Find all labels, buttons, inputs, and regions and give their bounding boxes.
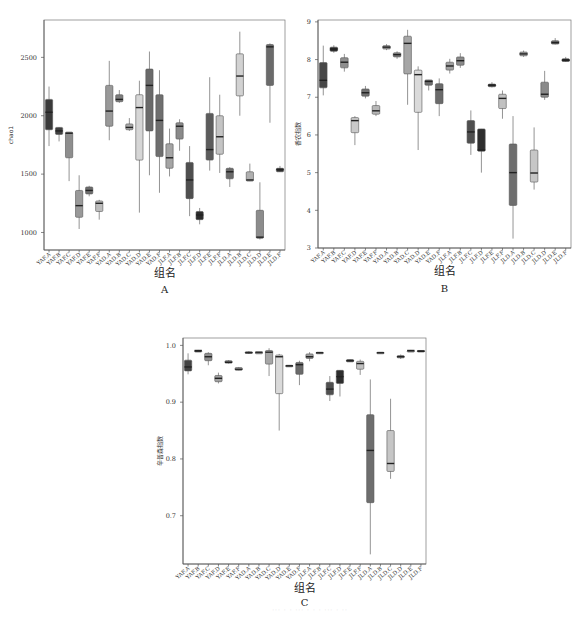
box-JLD.E [551,38,559,44]
iqr-box [367,415,374,503]
y-tick-label: 2500 [20,54,37,62]
box-JLF.E [346,360,353,362]
y-tick-label: 9 [307,18,311,26]
y-tick-label: 7 [307,93,311,101]
box-YAF.C [205,352,212,365]
iqr-box [146,69,153,131]
y-tick-label: 5 [307,169,311,177]
iqr-box [256,210,263,238]
box-YAD.E [425,80,433,91]
iqr-box [319,63,327,88]
box-JLD.D [397,354,404,359]
box-JLF.B [316,352,323,354]
panel-letter: B [441,283,448,294]
plot-area [318,20,571,248]
box-YAF.E [362,86,370,98]
iqr-box [216,116,223,155]
box-JLD.E [266,43,273,122]
box-JLD.A [509,116,517,238]
box-YAD.F [435,78,443,116]
figure-caption: ··· · · ··· · · · ··· · ·· [230,606,390,612]
iqr-box [509,144,517,205]
y-axis-label: chao1 [7,126,14,144]
box-YAD.A [245,351,252,354]
box-JLF.A [306,352,313,361]
box-YAF.F [372,101,380,116]
iqr-box [226,168,233,179]
box-YAD.C [404,30,412,105]
box-JLD.C [246,164,253,182]
iqr-box [176,123,183,139]
iqr-box [184,360,191,371]
y-tick-label: 0.9 [166,398,176,406]
box-YAD.D [414,66,422,150]
box-JLD.E [407,350,414,352]
box-YAD.C [126,118,133,131]
box-JLD.F [417,350,424,352]
iqr-box [478,129,486,151]
iqr-box [45,99,52,129]
box-JLF.A [166,129,173,177]
box-YAD.D [136,81,143,213]
box-YAD.C [265,348,272,376]
box-YAD.F [296,361,303,385]
chart-panel-a: 1000150020002500chao1YAF.AYAF.BYAF.CYAF.… [0,0,292,300]
box-JLD.B [377,352,384,354]
iqr-box [541,82,549,97]
box-YAD.B [116,90,123,103]
box-JLF.D [196,208,203,224]
panel-letter: A [160,284,169,295]
box-YAF.A [45,87,52,147]
y-tick-label: 2000 [20,112,37,120]
box-JLF.E [206,77,213,170]
iqr-box [372,106,380,115]
box-JLF.F [357,360,364,375]
box-YAD.B [393,51,401,59]
iqr-box [387,431,394,472]
shannon-boxplot: 3456789香农指数YAF.AYAF.BYAF.CYAF.DYAF.EYAF.… [292,0,583,300]
iqr-box [76,190,83,217]
y-axis-label: 辛普森指数 [156,436,164,466]
iqr-box [414,70,422,112]
iqr-box [116,95,123,102]
iqr-box [499,94,507,108]
box-JLF.A [446,59,454,74]
box-JLD.A [367,379,374,554]
box-JLF.F [499,90,507,118]
box-JLD.D [541,71,549,100]
iqr-box [351,118,359,133]
y-tick-label: 0.7 [166,512,176,520]
box-YAF.E [225,360,232,363]
chart-panel-c: 0.70.80.91.0辛普森指数YAF.AYAF.BYAF.CYAF.DYAF… [140,320,440,617]
box-JLD.C [530,127,538,189]
box-YAF.A [319,46,327,96]
box-JLF.F [216,95,223,173]
box-YAD.A [106,61,113,140]
simpson-boxplot: 0.70.80.91.0辛普森指数YAF.AYAF.BYAF.CYAF.DYAF… [140,320,440,617]
box-YAF.C [341,54,349,72]
box-YAD.F [156,70,163,193]
x-axis-label: 组名 [434,264,456,278]
x-axis-label: 组名 [294,581,316,595]
box-YAF.C [65,132,72,181]
box-JLF.C [186,146,193,216]
box-YAF.B [55,127,62,141]
iqr-box [96,201,103,212]
box-JLF.D [336,370,343,396]
chao1-boxplot: 1000150020002500chao1YAF.AYAF.BYAF.CYAF.… [0,0,292,300]
iqr-box [106,85,113,126]
box-JLD.D [256,182,263,239]
box-JLF.C [467,110,475,154]
iqr-box [530,150,538,182]
iqr-box [404,36,412,74]
box-JLF.B [457,53,465,68]
iqr-box [276,355,283,394]
iqr-box [357,361,364,369]
box-JLF.B [176,119,183,151]
chart-panel-b: 3456789香农指数YAF.AYAF.BYAF.CYAF.DYAF.EYAF.… [292,0,583,300]
y-tick-label: 1.0 [166,342,176,350]
box-JLD.C [387,399,394,479]
iqr-box [206,113,213,160]
box-YAD.D [276,354,283,431]
box-YAD.A [383,44,391,50]
